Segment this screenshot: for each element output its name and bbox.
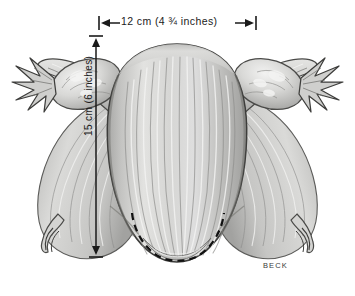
horizontal-measurement-label: 12 cm (4 ¾ inches) — [121, 16, 218, 27]
uterus-illustration-figure: 12 cm (4 ¾ inches) 15 cm (6 inches) BECK — [0, 0, 355, 296]
anatomical-drawing — [0, 0, 355, 296]
artist-signature: BECK — [263, 261, 288, 270]
vertical-measurement-label: 15 cm (6 inches) — [84, 56, 94, 136]
